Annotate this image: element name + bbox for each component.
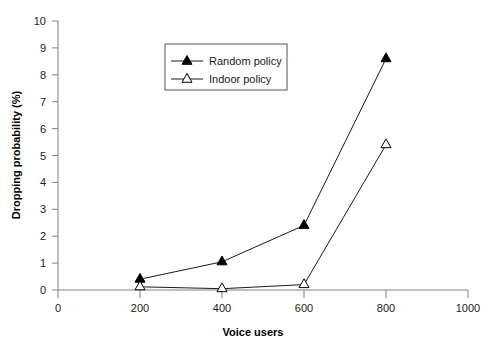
x-tick-labels: 0 200 400 600 800 1000 <box>55 302 480 314</box>
y-tick-label-7: 7 <box>40 96 46 108</box>
y-tick-label-1: 1 <box>40 257 46 269</box>
x-tick-marks <box>58 290 468 298</box>
y-tick-label-6: 6 <box>40 123 46 135</box>
y-tick-marks <box>52 21 58 290</box>
x-tick-label-200: 200 <box>131 302 149 314</box>
x-axis-title: Voice users <box>223 326 284 338</box>
y-tick-label-2: 2 <box>40 230 46 242</box>
series-random-policy-line <box>140 59 386 280</box>
x-tick-label-1000: 1000 <box>456 302 480 314</box>
x-tick-label-400: 400 <box>213 302 231 314</box>
y-tick-label-5: 5 <box>40 150 46 162</box>
y-tick-label-4: 4 <box>40 176 46 188</box>
y-tick-label-10: 10 <box>34 15 46 27</box>
y-tick-label-0: 0 <box>40 284 46 296</box>
y-tick-label-3: 3 <box>40 203 46 215</box>
y-tick-label-8: 8 <box>40 69 46 81</box>
x-tick-label-600: 600 <box>295 302 313 314</box>
data-point-random-600 <box>299 220 309 229</box>
legend: Random policy Indoor policy <box>165 44 287 90</box>
legend-label-indoor-policy: Indoor policy <box>209 73 272 85</box>
line-chart-svg: 0 1 2 3 4 5 6 7 8 9 10 0 200 400 600 <box>0 0 500 348</box>
y-axis-title: Dropping probability (%) <box>10 91 22 220</box>
series-indoor-policy-line <box>140 145 386 289</box>
series-indoor-policy <box>135 139 391 292</box>
x-tick-label-800: 800 <box>377 302 395 314</box>
legend-label-random-policy: Random policy <box>209 55 282 67</box>
data-point-indoor-400 <box>217 283 227 292</box>
y-tick-label-9: 9 <box>40 42 46 54</box>
chart-figure: 0 1 2 3 4 5 6 7 8 9 10 0 200 400 600 <box>0 0 500 348</box>
x-tick-label-0: 0 <box>55 302 61 314</box>
data-point-indoor-600 <box>299 279 309 288</box>
y-tick-labels: 0 1 2 3 4 5 6 7 8 9 10 <box>34 15 46 296</box>
data-point-indoor-800 <box>381 139 391 148</box>
data-point-random-800 <box>381 53 391 62</box>
